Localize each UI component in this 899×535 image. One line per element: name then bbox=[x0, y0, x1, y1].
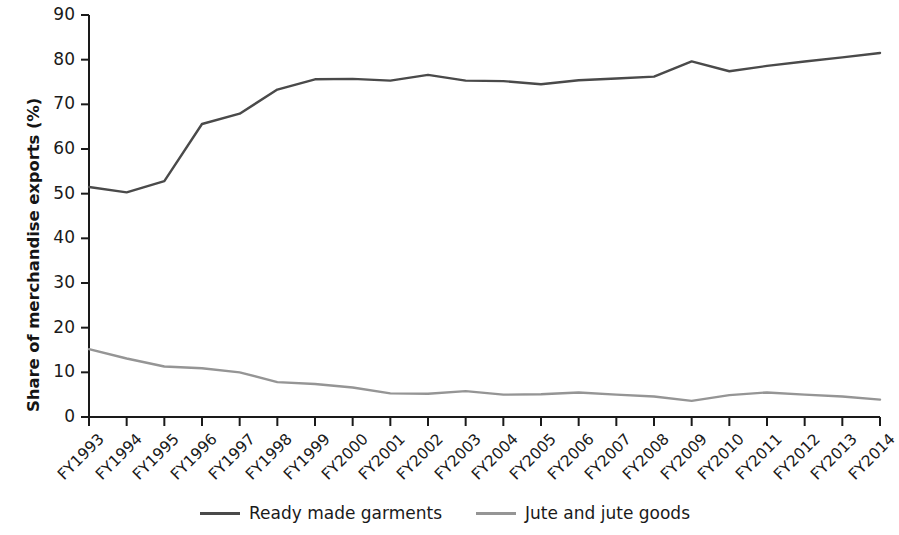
series-line-1 bbox=[89, 349, 880, 401]
axis-lines bbox=[81, 15, 880, 426]
chart-legend: Ready made garmentsJute and jute goods bbox=[0, 503, 890, 523]
legend-item[interactable]: Ready made garments bbox=[200, 503, 442, 523]
legend-line-swatch bbox=[476, 512, 516, 515]
legend-item[interactable]: Jute and jute goods bbox=[476, 503, 690, 523]
data-series-layer bbox=[89, 53, 880, 401]
legend-label: Jute and jute goods bbox=[525, 503, 690, 523]
series-line-0 bbox=[89, 53, 880, 192]
legend-line-swatch bbox=[200, 512, 240, 515]
legend-label: Ready made garments bbox=[249, 503, 442, 523]
